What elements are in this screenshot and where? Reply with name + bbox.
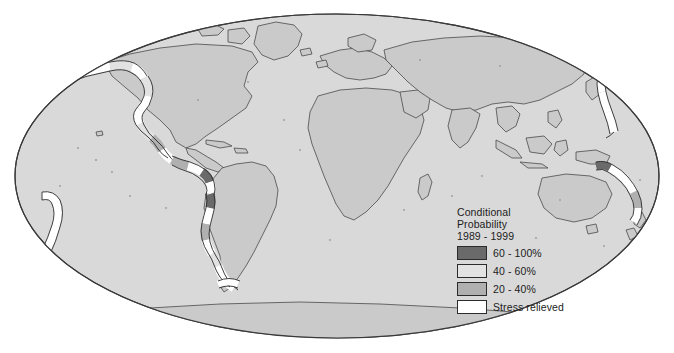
band-seg-sa-5 xyxy=(212,254,218,266)
legend-swatch-medium xyxy=(457,264,487,278)
band-seg-wna-3 xyxy=(138,110,140,124)
land-island-hawaii xyxy=(96,131,103,136)
legend-title: Conditional Probability 1989 - 1999 xyxy=(457,206,597,243)
band-seg-mel-5 xyxy=(634,208,638,222)
legend-entries: 60 - 100% 40 - 60% 20 - 40% Stress relie… xyxy=(457,245,597,316)
legend-item-stress-relieved: Stress relieved xyxy=(457,299,597,316)
land-hispaniola xyxy=(234,148,248,153)
legend-label-high: 60 - 100% xyxy=(493,247,542,259)
band-seg-jk-1 xyxy=(612,63,636,66)
band-seg-sa-1 xyxy=(210,194,211,208)
legend-swatch-stress-relieved xyxy=(457,300,487,314)
legend-item-medium: 40 - 60% xyxy=(457,263,597,280)
legend: Conditional Probability 1989 - 1999 60 -… xyxy=(457,206,597,317)
band-seg-ss-1 xyxy=(218,282,238,284)
band-seg-jk-2 xyxy=(602,66,612,76)
band-seg-ca-4 xyxy=(210,182,211,194)
band-seg-ca-2 xyxy=(188,166,202,172)
legend-label-medium: 40 - 60% xyxy=(493,265,536,277)
legend-swatch-low xyxy=(457,282,487,296)
band-seg-sa-3 xyxy=(205,224,206,240)
legend-title-line-3: 1989 - 1999 xyxy=(457,230,597,242)
band-seg-tk-2 xyxy=(56,202,58,226)
figure-container: Conditional Probability 1989 - 1999 60 -… xyxy=(0,0,674,353)
band-seg-mel-4 xyxy=(634,192,638,208)
legend-item-low: 20 - 40% xyxy=(457,281,597,298)
legend-title-line-2: Probability xyxy=(457,218,597,230)
legend-swatch-high xyxy=(457,246,487,260)
legend-label-stress-relieved: Stress relieved xyxy=(493,301,564,313)
band-seg-mel-1 xyxy=(596,165,610,168)
band-seg-sa-2 xyxy=(206,208,210,224)
legend-item-high: 60 - 100% xyxy=(457,245,597,262)
legend-label-low: 20 - 40% xyxy=(493,283,536,295)
legend-title-line-1: Conditional xyxy=(457,206,597,218)
